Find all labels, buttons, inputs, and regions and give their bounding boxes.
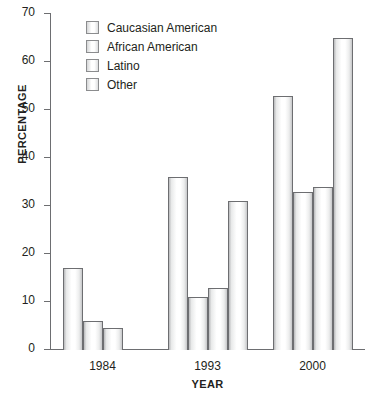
legend-swatch-african-american — [86, 40, 99, 53]
y-tick-label: 50 — [22, 101, 35, 115]
y-tick-label: 60 — [22, 53, 35, 67]
bar — [333, 38, 353, 350]
legend-item: Caucasian American — [86, 18, 217, 37]
y-tick: 60 — [44, 61, 51, 62]
y-axis-title: PERCENTAGE — [16, 59, 28, 189]
x-axis-title: YEAR — [50, 378, 365, 390]
y-tick: 40 — [44, 157, 51, 158]
y-tick: 10 — [44, 301, 51, 302]
legend-swatch-other — [86, 78, 99, 91]
legend-item-label: Other — [107, 78, 137, 92]
bar — [83, 321, 103, 350]
legend-item-label: Latino — [107, 59, 140, 73]
bar — [273, 96, 293, 350]
y-tick: 70 — [44, 13, 51, 14]
bar — [313, 187, 333, 350]
legend-item: Latino — [86, 56, 217, 75]
bar — [63, 268, 83, 350]
bar — [188, 297, 208, 350]
x-tick-label: 1993 — [168, 359, 248, 373]
legend-item-label: African American — [107, 40, 198, 54]
y-axis-line — [50, 14, 51, 350]
legend-swatch-latino — [86, 59, 99, 72]
legend-item: African American — [86, 37, 217, 56]
bar — [103, 328, 123, 350]
x-tick-label: 2000 — [273, 359, 353, 373]
legend-item: Other — [86, 75, 217, 94]
bar-group: 2000 — [273, 14, 353, 350]
y-tick-label: 0 — [28, 341, 35, 355]
bar — [168, 177, 188, 350]
y-tick: 30 — [44, 205, 51, 206]
y-tick: 50 — [44, 109, 51, 110]
bar — [293, 192, 313, 350]
legend-swatch-caucasian-american — [86, 21, 99, 34]
bar — [208, 288, 228, 350]
bar — [228, 201, 248, 350]
x-tick-label: 1984 — [63, 359, 143, 373]
y-tick-label: 40 — [22, 149, 35, 163]
y-tick-label: 20 — [22, 245, 35, 259]
y-tick: 20 — [44, 253, 51, 254]
chart-legend: Caucasian AmericanAfrican AmericanLatino… — [86, 18, 217, 94]
bar-chart: PERCENTAGE 706050403020100 198419932000 … — [0, 0, 375, 404]
y-tick: 0 — [44, 349, 51, 350]
legend-item-label: Caucasian American — [107, 21, 217, 35]
y-tick-label: 10 — [22, 293, 35, 307]
y-tick-label: 30 — [22, 197, 35, 211]
y-tick-label: 70 — [22, 5, 35, 19]
